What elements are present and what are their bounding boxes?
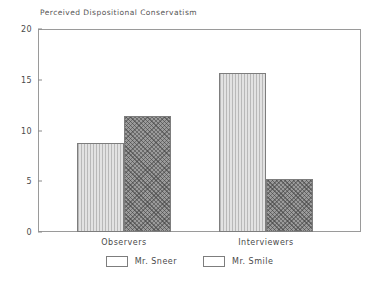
bar-observers-mr-smile bbox=[124, 116, 171, 232]
plot-area: 05101520 bbox=[38, 29, 361, 232]
bar-interviewers-mr-sneer bbox=[219, 73, 266, 232]
chart-title: Perceived Dispositional Conservatism bbox=[40, 8, 197, 17]
y-axis-tick-label: 10 bbox=[21, 126, 38, 135]
y-axis-tick-label: 15 bbox=[21, 75, 38, 84]
y-axis-tick-mark bbox=[38, 181, 42, 182]
x-axis-label-interviewers: Interviewers bbox=[238, 238, 294, 247]
y-axis-tick-mark bbox=[38, 79, 42, 80]
bar-chart-figure: Perceived Dispositional Conservatism 051… bbox=[0, 0, 379, 281]
legend-label: Mr. Smile bbox=[232, 257, 273, 266]
bar-observers-mr-sneer bbox=[77, 143, 124, 232]
y-axis-tick-label: 5 bbox=[27, 177, 39, 186]
y-axis-tick-mark bbox=[38, 130, 42, 131]
x-axis-label-observers: Observers bbox=[101, 238, 146, 247]
legend-item[interactable]: Mr. Sneer bbox=[106, 256, 177, 267]
y-axis-tick-mark bbox=[38, 29, 42, 30]
legend-item[interactable]: Mr. Smile bbox=[203, 256, 273, 267]
y-axis-tick-label: 20 bbox=[21, 25, 38, 34]
chart-legend: Mr. SneerMr. Smile bbox=[0, 256, 379, 267]
y-axis-tick-mark bbox=[38, 232, 42, 233]
legend-swatch-icon bbox=[203, 256, 225, 267]
bar-interviewers-mr-smile bbox=[266, 179, 313, 232]
legend-label: Mr. Sneer bbox=[135, 257, 177, 266]
legend-swatch-icon bbox=[106, 256, 128, 267]
y-axis-tick-label: 0 bbox=[27, 228, 39, 237]
